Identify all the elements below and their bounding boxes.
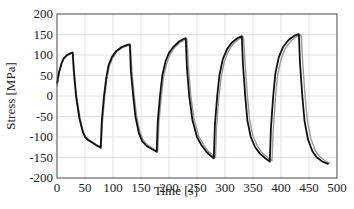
x-tick-label: 350 (243, 180, 263, 195)
x-tick-label: 0 (54, 180, 61, 195)
x-tick-label: 500 (327, 180, 347, 195)
series-line-simulated (57, 35, 330, 163)
x-tick-label: 150 (131, 180, 151, 195)
y-tick-label: 100 (34, 47, 54, 62)
x-tick-label: 100 (103, 180, 123, 195)
y-tick-label: -150 (29, 150, 53, 165)
y-tick-label: -100 (29, 129, 53, 144)
y-tick-label: 150 (34, 27, 54, 42)
y-tick-label: -200 (29, 170, 53, 185)
x-tick-label: 300 (215, 180, 235, 195)
data-series (57, 34, 330, 164)
x-tick-label: 400 (271, 180, 291, 195)
x-tick-label: 50 (79, 180, 92, 195)
stress-time-chart: 200150100500-50-100-150-200 050100150200… (0, 0, 354, 209)
y-axis-ticks: 200150100500-50-100-150-200 (29, 6, 53, 185)
y-tick-label: 200 (34, 6, 54, 21)
x-tick-label: 450 (299, 180, 319, 195)
y-tick-label: 0 (47, 88, 54, 103)
x-axis-ticks: 050100150200250300350400450500 (54, 180, 347, 195)
x-axis-label: Time [s] (154, 183, 198, 198)
y-axis-label: Stress [MPa] (3, 62, 18, 130)
y-tick-label: -50 (36, 109, 53, 124)
y-tick-label: 50 (40, 68, 53, 83)
